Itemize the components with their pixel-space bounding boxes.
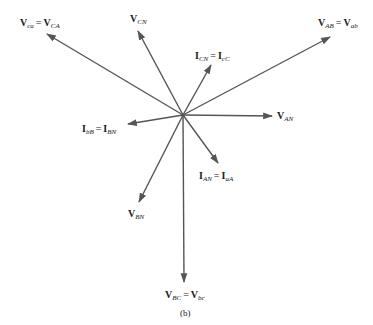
phasor-v-ca xyxy=(47,34,183,115)
label-v-an: VAN xyxy=(277,111,293,123)
phasor-v-an xyxy=(183,115,272,116)
label-i-cn: ICN=IcC xyxy=(195,51,230,63)
phasor-i-bb xyxy=(128,115,183,124)
origin-point xyxy=(181,113,184,116)
label-v-bc: VBC=Vbc xyxy=(165,290,205,302)
phasor-i-an xyxy=(183,115,218,163)
label-v-cn: VCN xyxy=(130,14,147,26)
label-i-an: IAN=IaA xyxy=(199,171,233,183)
label-v-ca: Vca=VCA xyxy=(20,18,60,30)
label-v-ab: VAB=Vab xyxy=(318,18,358,30)
phasor-v-bc xyxy=(183,115,184,282)
phasor-diagram xyxy=(0,0,373,325)
phasor-v-bn xyxy=(139,115,183,202)
label-v-bn: VBN xyxy=(128,209,144,221)
label-i-bb: IbB=IBN xyxy=(82,124,116,136)
figure-caption: (b) xyxy=(180,308,191,318)
